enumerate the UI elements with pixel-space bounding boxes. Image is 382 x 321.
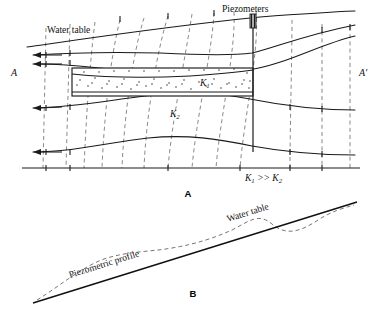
flow-arrows — [33, 52, 62, 155]
flow-arrow — [33, 52, 62, 58]
section-right-label: A' — [358, 67, 368, 78]
flow-net-figure: Water table Piezometers A A' K1 K2 K1 >>… — [0, 0, 382, 321]
equipotential-line — [43, 28, 46, 168]
panel-a-group: Water table Piezometers A A' K1 K2 K1 >>… — [10, 4, 368, 199]
conductivity-relation-label: K1 >> K2 — [244, 173, 283, 184]
panel-b-water-table-label: Water table — [226, 201, 270, 224]
matrix-k2-label: K2 — [169, 109, 180, 120]
lens-k1 — [72, 68, 253, 96]
equipotential-line — [66, 24, 70, 168]
water-table-label: Water table — [47, 25, 90, 35]
piezometric-profile-label: Piezometric profile — [68, 248, 141, 280]
panel-a-letter: A — [185, 188, 192, 199]
flow-arrow — [33, 61, 62, 67]
section-left-label: A — [10, 67, 18, 78]
panel-b-letter: B — [190, 288, 197, 299]
flow-arrow — [33, 105, 62, 111]
figure-container: Water table Piezometers A A' K1 K2 K1 >>… — [0, 0, 382, 321]
flow-arrow — [33, 149, 62, 155]
piezometers-label: Piezometers — [222, 4, 269, 14]
panel-b-group: Piezometric profile Water table B — [33, 201, 357, 303]
